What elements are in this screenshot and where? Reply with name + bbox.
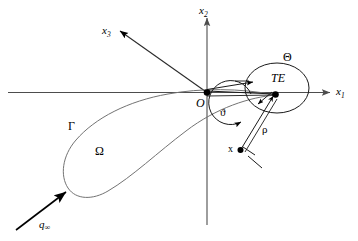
boundary-label: Γ: [68, 120, 75, 132]
origin-label: O: [196, 97, 205, 109]
origin-point: [204, 89, 211, 96]
axis-x1-label: x1: [336, 86, 345, 97]
trailing-edge-point: [272, 91, 279, 98]
origin-to-te-ray-lower: [207, 95, 274, 96]
freestream-label: q∞: [39, 219, 50, 230]
field-point-tick-upper: [243, 147, 255, 155]
field-point: [238, 147, 244, 153]
angle-label: ϑ: [220, 107, 225, 118]
radius-vector-rho: [241, 97, 274, 151]
axis-x3-label: x3: [102, 25, 111, 36]
radius-label: ρ: [262, 124, 268, 135]
te-neighborhood-label: Θ: [283, 51, 292, 63]
field-point-tick-lower: [248, 156, 262, 168]
trailing-edge-label: TE: [271, 72, 285, 84]
figure-canvas: x2 x3 x1 O TE Θ Γ Ω ϑ ρ x q∞: [0, 0, 358, 241]
domain-label: Ω: [95, 145, 104, 157]
diagram-vector-graphics: [0, 0, 358, 241]
field-point-label: x: [228, 144, 233, 154]
radius-vector-rho-edge: [245, 99, 277, 152]
axis-x3-line: [120, 31, 207, 93]
axis-x2-label: x2: [199, 5, 208, 16]
